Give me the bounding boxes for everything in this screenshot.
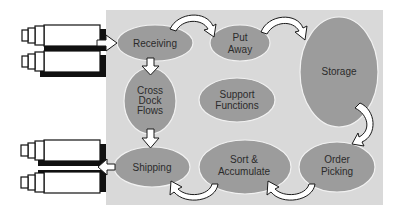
svg-text:Away: Away: [228, 44, 252, 55]
node-label: Away: [228, 44, 252, 55]
truck-icon: [22, 51, 106, 77]
inbound-trucks: [22, 25, 106, 77]
svg-text:Flows: Flows: [137, 105, 163, 116]
svg-text:Storage: Storage: [321, 66, 356, 77]
node-label: Flows: [137, 105, 163, 116]
svg-text:Receiving: Receiving: [133, 38, 177, 49]
node-label: Sort &: [230, 154, 258, 165]
node-label: Accumulate: [218, 166, 271, 177]
svg-text:Put: Put: [232, 32, 247, 43]
svg-text:Order: Order: [324, 154, 350, 165]
svg-text:Accumulate: Accumulate: [218, 166, 271, 177]
node-label: Receiving: [133, 38, 177, 49]
node-label: Picking: [321, 166, 353, 177]
node-label: Storage: [321, 66, 356, 77]
svg-text:Support: Support: [219, 89, 254, 100]
node-cross-dock-flows: Cross Dock Flows: [124, 68, 176, 134]
node-label: Order: [324, 154, 350, 165]
truck-icon: [22, 25, 106, 51]
svg-text:Shipping: Shipping: [133, 162, 172, 173]
node-label: Shipping: [133, 162, 172, 173]
node-shipping: Shipping: [114, 147, 190, 187]
node-label: Support: [219, 89, 254, 100]
svg-text:Functions: Functions: [215, 100, 258, 111]
svg-text:Picking: Picking: [321, 166, 353, 177]
node-support-functions: Support Functions: [199, 78, 275, 122]
truck-icon: [21, 140, 106, 166]
node-put-away: Put Away: [210, 25, 270, 61]
warehouse-flow-diagram: Receiving Put Away Storage Cross Dock Fl…: [0, 0, 402, 215]
outbound-trucks: [21, 140, 106, 193]
truck-icon: [21, 170, 106, 193]
node-label: Functions: [215, 100, 258, 111]
node-receiving: Receiving: [117, 25, 193, 61]
node-label: Put: [232, 32, 247, 43]
svg-text:Sort &: Sort &: [230, 154, 258, 165]
